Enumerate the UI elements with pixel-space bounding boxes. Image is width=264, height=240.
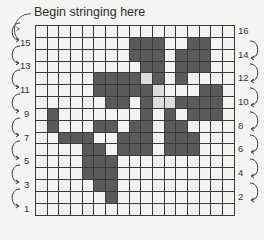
pattern-cell [71,97,83,109]
pattern-cell [153,109,165,121]
curved-arrow-left-icon [8,163,22,185]
row-number-label: 1 [24,203,29,214]
pattern-cell [94,180,106,192]
pattern-cell [83,168,95,180]
pattern-cell [176,109,188,121]
pattern-cell [211,50,223,62]
pattern-cell [223,168,235,180]
curved-arrow-left-icon [8,92,22,114]
pattern-cell [118,204,130,216]
pattern-cell [211,38,223,50]
pattern-cell [211,180,223,192]
pattern-cell [118,168,130,180]
pattern-cell [223,133,235,145]
pattern-cell [83,62,95,74]
pattern-cell [130,97,142,109]
pattern-cell [130,180,142,192]
pattern-cell [188,192,200,204]
pattern-cell [200,62,212,74]
pattern-cell [48,168,60,180]
pattern-cell [48,133,60,145]
pattern-cell [94,156,106,168]
pattern-cell [71,192,83,204]
pattern-cell [94,144,106,156]
pattern-cell [188,204,200,216]
pattern-cell [71,133,83,145]
pattern-cell [36,121,48,133]
pattern-cell [165,180,177,192]
pattern-cell [106,168,118,180]
pattern-cell [211,168,223,180]
pattern-cell [141,85,153,97]
pattern-cell [48,85,60,97]
pattern-cell [94,73,106,85]
pattern-cell [141,73,153,85]
pattern-cell [83,85,95,97]
curved-arrow-right-icon [248,181,262,203]
pattern-cell [83,26,95,38]
pattern-cell [153,144,165,156]
pattern-cell [83,192,95,204]
pattern-cell [165,62,177,74]
pattern-cell [165,192,177,204]
pattern-cell [130,133,142,145]
row-number-label: 3 [24,179,29,190]
pattern-cell [223,85,235,97]
pattern-cell [188,109,200,121]
pattern-cell [188,144,200,156]
pattern-cell [211,26,223,38]
pattern-cell [71,180,83,192]
pattern-cell [94,50,106,62]
pattern-cell [59,204,71,216]
pattern-cell [48,109,60,121]
pattern-cell [106,73,118,85]
pattern-cell [118,121,130,133]
pattern-cell [106,85,118,97]
pattern-cell [118,144,130,156]
pattern-cell [71,168,83,180]
pattern-cell [130,38,142,50]
pattern-cell [83,133,95,145]
pattern-cell [188,50,200,62]
curved-arrow-right-icon [248,157,262,179]
pattern-cell [118,133,130,145]
pattern-cell [83,156,95,168]
pattern-cell [83,121,95,133]
pattern-cell [153,50,165,62]
pattern-cell [223,180,235,192]
curved-arrow-right-icon [248,62,262,84]
pattern-cell [36,192,48,204]
pattern-cell [59,26,71,38]
pattern-cell [141,168,153,180]
pattern-cell [130,73,142,85]
pattern-cell [141,26,153,38]
pattern-cell [83,144,95,156]
pattern-cell [71,156,83,168]
pattern-cell [59,168,71,180]
pattern-cell [106,156,118,168]
pattern-cell [223,156,235,168]
pattern-cell [118,38,130,50]
pattern-cell [48,144,60,156]
pattern-cell [59,121,71,133]
pattern-cell [223,97,235,109]
pattern-cell [200,109,212,121]
pattern-cell [94,26,106,38]
pattern-cell [141,156,153,168]
pattern-cell [36,168,48,180]
pattern-cell [188,121,200,133]
pattern-cell [200,133,212,145]
pattern-cell [130,62,142,74]
pattern-cell [59,133,71,145]
curved-arrow-left-icon [8,44,22,66]
pattern-cell [165,26,177,38]
pattern-cell [71,121,83,133]
pattern-cell [36,97,48,109]
pattern-cell [141,109,153,121]
pattern-cell [130,26,142,38]
pattern-cell [118,50,130,62]
pattern-cell [176,62,188,74]
pattern-cell [211,121,223,133]
pattern-cell [153,26,165,38]
pattern-cell [83,109,95,121]
